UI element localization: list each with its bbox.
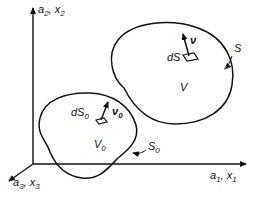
normal-vector-arrow — [101, 102, 108, 120]
surface-label: S0 — [148, 140, 160, 155]
reference-body-outline — [39, 93, 137, 178]
volume-label: V0 — [94, 138, 106, 153]
normal-label: ν — [190, 34, 197, 46]
normal-vector-arrow — [183, 34, 189, 56]
element-label: dS — [167, 51, 181, 63]
horizontal-axis-label: a1, x1 — [210, 169, 237, 184]
reference-surface-element: ν0 dS0 V0 S0 — [71, 102, 160, 155]
normal-label: ν0 — [112, 105, 123, 120]
surface-label: S — [234, 42, 242, 54]
current-surface-element: ν dS V S — [167, 34, 242, 93]
surface-pointer-arrow — [133, 150, 146, 153]
volume-label: V — [180, 81, 189, 93]
vertical-axis-label: a2, x2 — [38, 3, 65, 18]
surface-patch-icon — [183, 53, 198, 61]
diagonal-axis-label: a3, x3 — [13, 176, 40, 191]
current-body-outline — [111, 23, 232, 124]
element-label: dS0 — [71, 106, 89, 121]
configuration-diagram: a2, x2 a1, x1 a3, x3 ν dS V S ν0 dS0 V0 … — [0, 0, 254, 197]
